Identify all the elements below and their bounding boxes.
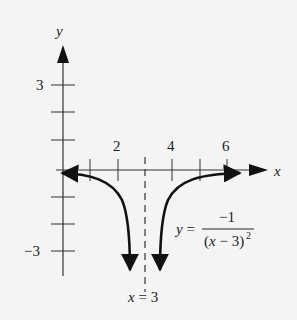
y-tick-label: −3	[24, 243, 40, 259]
graph: y 3 −3 x 2 4 6 x = 3 y = −1 (x − 3) 2	[0, 0, 297, 320]
equation-label: y = −1 (x − 3) 2	[174, 209, 254, 250]
y-axis: y 3 −3	[24, 23, 75, 276]
asymptote-label: x = 3	[127, 289, 158, 305]
x-tick-label: 4	[167, 138, 175, 154]
x-axis: x 2 4 6	[56, 138, 281, 181]
y-tick-label: 3	[36, 77, 44, 93]
x-axis-label: x	[273, 163, 281, 179]
svg-text:y =: y =	[174, 221, 195, 237]
svg-text:−1: −1	[219, 209, 235, 225]
left-branch	[62, 173, 130, 270]
asymptote: x = 3	[127, 157, 158, 305]
svg-text:(x − 3): (x − 3)	[204, 233, 244, 250]
x-tick-label: 6	[222, 138, 230, 154]
svg-text:2: 2	[246, 230, 251, 241]
y-axis-label: y	[54, 23, 63, 39]
x-tick-label: 2	[113, 138, 121, 154]
